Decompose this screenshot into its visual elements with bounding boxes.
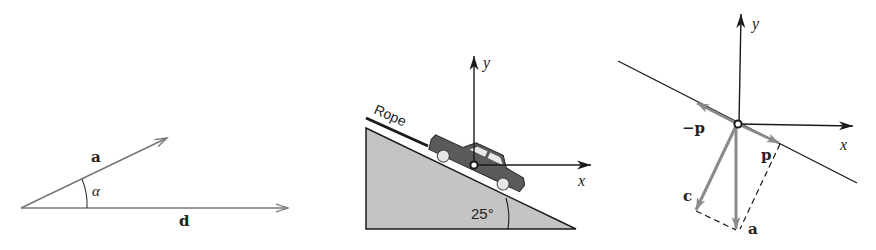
vector-a-label: a [91,148,101,166]
vector-c-label: c [683,187,692,205]
angle-alpha-label: α [92,183,101,199]
rope-label: Rope [372,101,409,129]
incline-angle-label: 25° [471,205,494,222]
angle-arc-alpha [82,179,87,208]
panel-vector-decomposition: y x p −p a c [618,14,857,238]
dashed-p-to-a [740,144,780,229]
vector-c [696,126,736,210]
y-axis-label: y [750,15,760,33]
vector-a-label: a [748,220,758,238]
y-axis [739,14,741,124]
x-axis [739,124,853,126]
vector-p-label: p [761,146,772,164]
y-axis-label: y [481,54,491,72]
vector-neg-p-label: −p [682,119,705,137]
panel-car-on-incline: Rope y x 25° [366,54,591,229]
vector-d-label: d [179,212,190,230]
x-axis-label: x [839,136,847,153]
origin-marker [734,120,741,127]
origin-marker [470,161,477,168]
vector-p [738,124,779,143]
panel-vector-angle: a α d [21,138,288,230]
x-axis-label: x [577,172,585,189]
dashed-c-to-a [696,211,736,230]
figure-canvas: a α d Rope y x 25° [0,0,876,250]
